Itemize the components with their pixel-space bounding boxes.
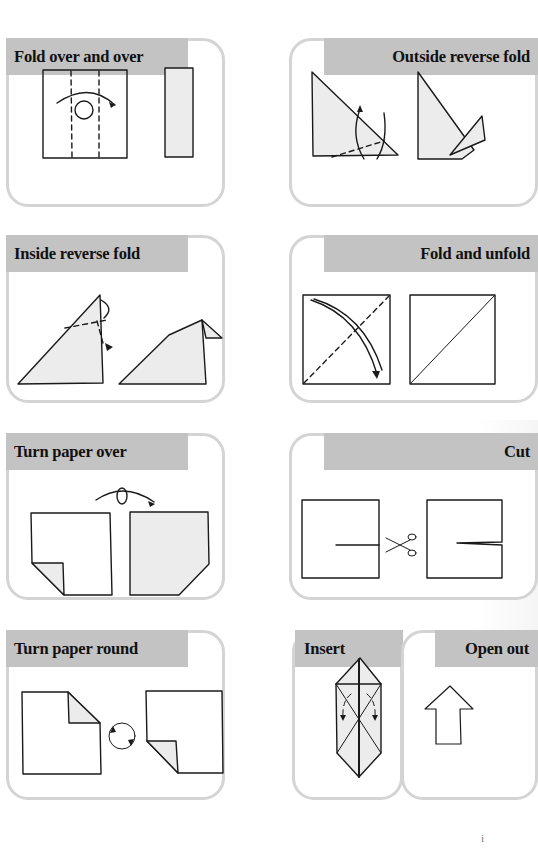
loop-icon xyxy=(75,101,93,119)
triangle-paper xyxy=(18,295,103,384)
folded-corner xyxy=(32,563,64,595)
cut-paper xyxy=(427,500,502,578)
panel-fold-over-and-over: Fold over and over xyxy=(6,38,225,207)
panel-insert: Insert xyxy=(292,630,403,800)
turn-paper-round-diagram xyxy=(9,633,228,803)
up-arrow-icon xyxy=(425,686,473,744)
open-out-diagram xyxy=(404,633,538,803)
square-paper xyxy=(22,692,101,774)
panel-open-out: Open out xyxy=(401,630,538,800)
scissors-icon xyxy=(386,534,416,556)
folded-corner xyxy=(147,741,178,773)
triangle-paper xyxy=(312,72,398,156)
outside-reverse-fold-diagram xyxy=(292,41,538,210)
fold-arrow-icon xyxy=(101,300,109,318)
crease-line xyxy=(411,296,494,383)
folded-paper xyxy=(119,320,206,384)
inside-flap xyxy=(202,320,222,338)
flipped-paper xyxy=(130,512,209,595)
fold-line xyxy=(71,71,72,157)
arrowhead-icon xyxy=(105,343,113,351)
folded-corner xyxy=(68,692,100,723)
panel-cut: Cut xyxy=(289,433,538,600)
page-number: i xyxy=(481,832,484,844)
folded-strip xyxy=(165,68,193,157)
panel-outside-reverse-fold: Outside reverse fold xyxy=(289,38,538,207)
square-paper xyxy=(31,513,112,595)
cut-diagram xyxy=(292,436,538,603)
square-paper xyxy=(43,70,127,158)
rotated-paper xyxy=(146,691,223,773)
fold-arrow-icon xyxy=(57,92,115,105)
panel-fold-and-unfold: Fold and unfold xyxy=(289,235,538,403)
arrowhead-icon xyxy=(357,105,363,112)
arrowhead-icon xyxy=(372,371,380,379)
square-paper xyxy=(302,500,379,578)
insert-diagram xyxy=(295,633,406,803)
panel-turn-paper-over: Turn paper over xyxy=(6,433,225,600)
fold-over-and-over-diagram xyxy=(9,41,228,210)
turn-paper-over-diagram xyxy=(9,436,228,603)
panel-inside-reverse-fold: Inside reverse fold xyxy=(6,235,225,403)
fold-and-unfold-diagram xyxy=(292,238,538,406)
turn-over-arrow-icon xyxy=(96,491,154,502)
inside-reverse-fold-diagram xyxy=(9,238,228,406)
panel-turn-paper-round: Turn paper round xyxy=(6,630,225,800)
